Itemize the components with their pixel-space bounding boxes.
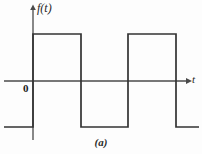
- square-wave-plot: [0, 0, 202, 154]
- origin-label: 0: [23, 83, 29, 94]
- figure-square-wave: f(t) t 0 (a): [0, 0, 202, 154]
- y-axis-arrowhead: [30, 5, 36, 11]
- figure-caption: (a): [0, 136, 202, 148]
- x-axis-label: t: [192, 74, 195, 85]
- y-axis-label: f(t): [37, 2, 52, 14]
